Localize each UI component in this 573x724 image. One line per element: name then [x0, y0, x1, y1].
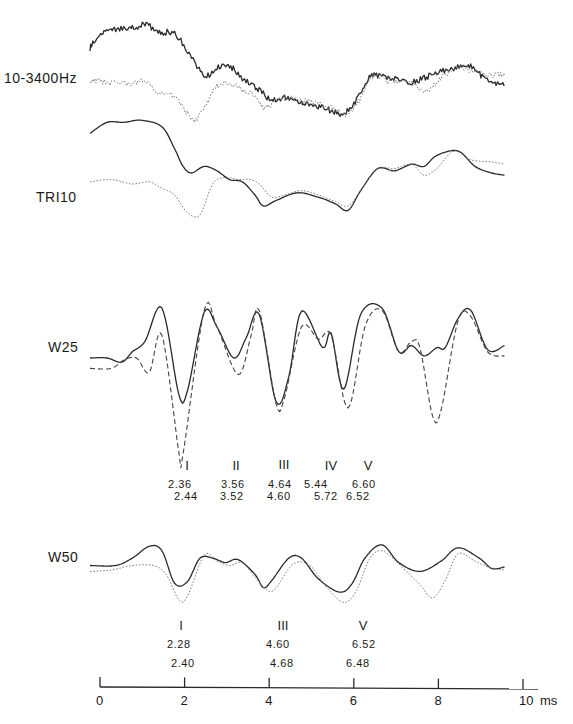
- panel-label-10-3400hz: 10-3400Hz: [4, 70, 77, 86]
- panel-w25: [90, 302, 505, 468]
- w25-wave-name: I: [185, 458, 189, 473]
- x-tick-label: 8: [434, 693, 441, 708]
- w25-latency-dashed: 5.72: [314, 490, 338, 502]
- w25-latency-solid: 3.56: [221, 478, 245, 490]
- w25-wave-name: V: [364, 458, 373, 473]
- x-axis: [100, 677, 538, 689]
- traces-group: [90, 22, 505, 602]
- trace-dotted: [90, 551, 505, 603]
- abr-waveform-figure: 10-3400Hz TRI10 W25 W50 I II III IV V 2.…: [0, 0, 573, 724]
- x-axis-line: [100, 687, 538, 689]
- w50-latency-dashed: 6.48: [346, 657, 370, 669]
- w50-wave-name: V: [359, 618, 368, 633]
- trace-dotted: [90, 151, 505, 217]
- w25-latency-solid: 2.36: [168, 478, 192, 490]
- w50-latency-solid: 2.28: [167, 638, 191, 650]
- w50-latency-dashed: 4.68: [270, 657, 294, 669]
- panel-label-w25: W25: [48, 339, 78, 355]
- panel-label-tri10: TRI10: [36, 189, 77, 205]
- w50-latency-solid: 6.52: [352, 638, 376, 650]
- w25-latency-solid: 5.44: [304, 478, 328, 490]
- panel-label-w50: W50: [48, 549, 78, 565]
- panel-tri10: [90, 120, 505, 217]
- x-tick-label: 6: [350, 693, 357, 708]
- x-axis-unit-label: ms: [540, 693, 558, 708]
- panel-w50: [90, 545, 505, 603]
- w50-wave-name: III: [278, 618, 289, 633]
- w25-wave-name: IV: [325, 458, 338, 473]
- w25-latency-solid: 4.64: [268, 478, 292, 490]
- x-tick-label: 10: [519, 693, 533, 708]
- x-tick-label: 0: [96, 693, 103, 708]
- trace-solid: [90, 22, 505, 116]
- trace-solid: [90, 545, 505, 592]
- w25-latency-dashed: 3.52: [220, 490, 244, 502]
- w25-wave-name: II: [232, 458, 239, 473]
- trace-solid: [90, 304, 505, 405]
- w50-latency-solid: 4.60: [266, 638, 290, 650]
- w25-latency-solid: 6.60: [352, 478, 376, 490]
- w25-wave-name: III: [279, 457, 290, 472]
- w50-wave-annotations: I III V 2.28 4.60 6.52 2.40 4.68 6.48: [167, 618, 376, 669]
- w50-wave-name: I: [179, 618, 183, 633]
- trace-dotted: [90, 64, 505, 123]
- w25-wave-annotations: I II III IV V 2.36 3.56 4.64 5.44 6.60 2…: [168, 457, 376, 502]
- w25-latency-dashed: 4.60: [267, 490, 291, 502]
- w25-latency-dashed: 6.52: [346, 490, 370, 502]
- trace-solid: [90, 120, 505, 211]
- w50-latency-dashed: 2.40: [171, 657, 195, 669]
- w25-latency-dashed: 2.44: [174, 490, 198, 502]
- x-tick-label: 2: [181, 693, 188, 708]
- panel-10-3400hz: [90, 22, 505, 122]
- x-tick-label: 4: [265, 693, 272, 708]
